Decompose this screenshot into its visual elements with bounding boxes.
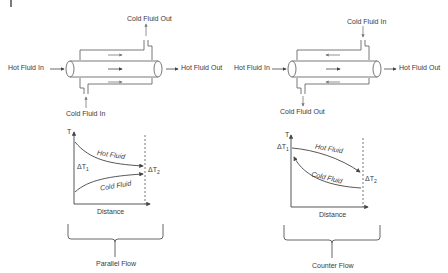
hot-fluid-in-label: Hot Fluid In [8, 64, 44, 72]
x-axis-label: Distance [97, 208, 124, 216]
parallel-flow-title: Parallel Flow [96, 260, 136, 268]
cold-fluid-in-label: Cold Fluid In [66, 110, 105, 118]
cold-fluid-in-label: Cold Fluid In [347, 18, 386, 26]
hot-fluid-out-label: Hot Fluid Out [399, 64, 440, 72]
cold-fluid-curve [294, 157, 361, 188]
parallel-exchanger [50, 24, 178, 108]
counter-flow-title: Counter Flow [312, 262, 354, 270]
hot-fluid-in-label: Hot Fluid In [234, 64, 270, 72]
counter-brace [284, 225, 380, 258]
parallel-brace [68, 224, 163, 257]
heat-exchanger-diagram: Cold Fluid Out Hot Fluid In Hot Fluid Ou… [0, 0, 448, 273]
x-axis-label: Distance [319, 211, 346, 219]
delta-t2-label: ΔT2 [365, 175, 377, 185]
cold-fluid-out-label: Cold Fluid Out [127, 15, 172, 23]
cold-fluid-out-label: Cold Fluid Out [280, 108, 325, 116]
y-axis-label: T [285, 131, 289, 139]
diagram-graphics [0, 0, 448, 273]
delta-t1-label: ΔT1 [77, 163, 89, 173]
delta-t1-label: ΔT1 [277, 143, 289, 153]
y-axis-label: T [67, 128, 71, 136]
delta-t2-label: ΔT2 [148, 166, 160, 176]
counter-exchanger [272, 26, 396, 106]
hot-fluid-out-label: Hot Fluid Out [181, 64, 222, 72]
